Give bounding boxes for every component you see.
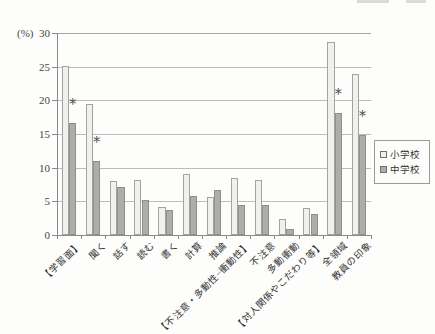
category-label: 読む	[135, 240, 156, 261]
bar-elementary-7	[231, 178, 238, 235]
y-tick-mark	[52, 168, 57, 169]
legend-item-elementary: 小学校	[380, 147, 429, 162]
y-tick-label-15: 15	[28, 128, 50, 140]
bar-junior-3	[142, 200, 149, 235]
significance-asterisk: *	[66, 97, 80, 111]
bar-junior-0	[69, 123, 76, 235]
legend-swatch-light	[380, 151, 387, 158]
cropped-page-header-fragment	[357, 0, 389, 3]
bar-junior-4	[166, 210, 173, 235]
bar-elementary-2	[110, 181, 117, 235]
x-tick-mark	[178, 235, 179, 239]
bar-elementary-4	[158, 207, 165, 235]
bar-elementary-9	[279, 219, 286, 235]
bar-junior-11	[335, 113, 342, 236]
bar-junior-5	[190, 196, 197, 235]
bar-elementary-5	[183, 174, 190, 235]
bar-elementary-0	[62, 66, 69, 235]
legend-item-junior: 中学校	[380, 162, 429, 177]
x-tick-mark	[250, 235, 251, 239]
bar-junior-1	[93, 161, 100, 235]
x-tick-mark	[323, 235, 324, 239]
y-tick-label-10: 10	[28, 162, 50, 174]
bar-junior-8	[262, 205, 269, 235]
category-label: 話す	[110, 240, 131, 261]
category-label: 書く	[159, 240, 180, 261]
bar-elementary-8	[255, 180, 262, 235]
bar-junior-12	[359, 135, 366, 235]
x-tick-mark	[154, 235, 155, 239]
x-axis-line	[57, 235, 372, 236]
gridline-15pct	[57, 134, 371, 135]
x-tick-mark	[105, 235, 106, 239]
y-tick-mark	[52, 33, 57, 34]
y-tick-label-0: 0	[28, 229, 50, 241]
legend-swatch-dark	[380, 166, 387, 173]
category-label: 聞く	[86, 240, 107, 261]
bar-junior-6	[214, 190, 221, 235]
x-tick-mark	[226, 235, 227, 239]
y-tick-label-5: 5	[28, 195, 50, 207]
x-tick-mark	[130, 235, 131, 239]
bar-elementary-12	[352, 74, 359, 235]
y-tick-label-25: 25	[28, 61, 50, 73]
bar-elementary-1	[86, 104, 93, 235]
x-tick-mark	[202, 235, 203, 239]
bar-elementary-10	[303, 208, 310, 235]
x-tick-mark	[57, 235, 58, 239]
bar-junior-9	[286, 229, 293, 235]
y-axis-line	[57, 33, 58, 236]
x-tick-mark	[299, 235, 300, 239]
x-tick-mark	[371, 235, 372, 239]
bar-junior-10	[311, 214, 318, 235]
significance-asterisk: *	[356, 109, 370, 123]
legend-box: 小学校中学校	[374, 140, 430, 184]
y-tick-mark	[52, 100, 57, 101]
legend-label: 中学校	[390, 165, 420, 175]
category-label: 計算	[183, 240, 204, 261]
x-tick-mark	[274, 235, 275, 239]
gridline-25pct	[57, 67, 371, 68]
x-tick-mark	[347, 235, 348, 239]
y-tick-label-30: 30	[28, 27, 50, 39]
category-label: 【学習面】	[41, 240, 83, 282]
gridline-10pct	[57, 168, 371, 169]
cropped-page-header-fragment	[406, 0, 426, 3]
y-tick-mark	[52, 201, 57, 202]
category-label: 推論	[207, 240, 228, 261]
bar-elementary-11	[327, 42, 334, 235]
gridline-20pct	[57, 100, 371, 101]
y-tick-mark	[52, 67, 57, 68]
y-tick-label-20: 20	[28, 94, 50, 106]
significance-asterisk: *	[90, 135, 104, 149]
legend-label: 小学校	[390, 150, 420, 160]
significance-asterisk: *	[331, 87, 345, 101]
bar-junior-2	[117, 187, 124, 236]
bar-elementary-6	[207, 197, 214, 235]
bar-junior-7	[238, 205, 245, 235]
x-tick-mark	[81, 235, 82, 239]
y-tick-mark	[52, 134, 57, 135]
gridline-30pct	[57, 33, 371, 34]
bar-elementary-3	[134, 180, 141, 235]
